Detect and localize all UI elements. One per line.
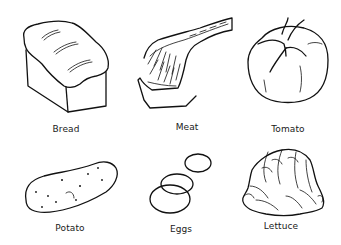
label-eggs: Eggs	[170, 224, 192, 234]
eggs-icon	[150, 154, 211, 213]
label-tomato: Tomato	[271, 124, 304, 134]
bread-icon	[24, 21, 109, 112]
label-bread: Bread	[53, 124, 80, 134]
food-illustrations	[0, 0, 341, 245]
meat-icon	[138, 18, 232, 108]
label-potato: Potato	[55, 223, 84, 233]
potato-icon	[26, 162, 118, 212]
food-worksheet: Bread Meat Tomato Potato Eggs Lettuce	[0, 0, 341, 245]
label-lettuce: Lettuce	[264, 221, 298, 231]
tomato-icon	[248, 18, 328, 103]
lettuce-icon	[243, 149, 324, 215]
label-meat: Meat	[176, 122, 199, 132]
